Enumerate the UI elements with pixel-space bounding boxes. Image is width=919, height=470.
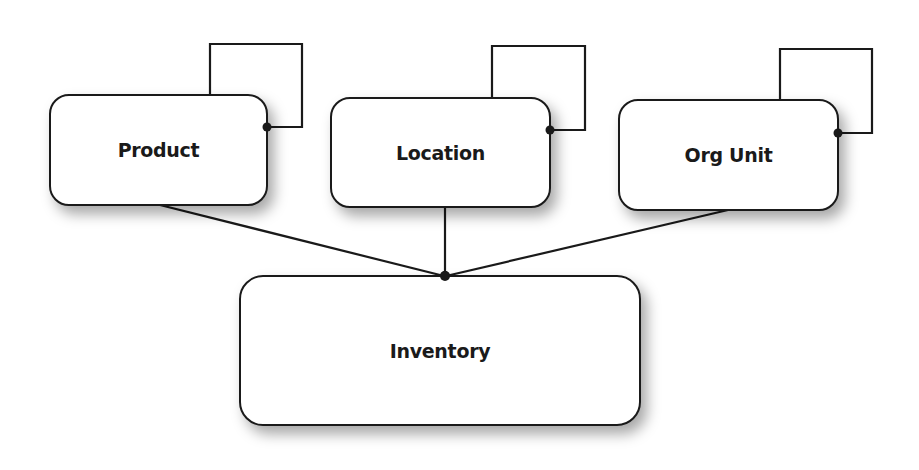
entity-org-unit[interactable]: Org Unit [618,99,839,211]
entity-label: Location [396,142,485,164]
line-product-inventory [160,205,444,276]
entity-label: Org Unit [685,144,773,166]
entity-inventory[interactable]: Inventory [239,275,641,426]
entity-location[interactable]: Location [330,97,551,208]
entity-label: Inventory [390,340,491,362]
entity-label: Product [118,139,200,161]
line-orgunit-inventory [446,210,728,276]
entity-product[interactable]: Product [49,94,268,206]
